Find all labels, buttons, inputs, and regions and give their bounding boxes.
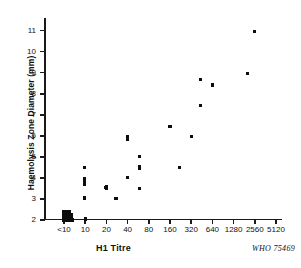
x-tick-2560: [254, 219, 256, 224]
data-point: [199, 78, 202, 81]
data-point: [199, 104, 202, 107]
data-point: [246, 72, 249, 75]
y-tick-11: [40, 30, 46, 32]
y-tick-label-11: 11: [18, 26, 36, 35]
y-tick-4: [40, 177, 46, 179]
data-point: [126, 135, 129, 138]
data-point: [83, 181, 86, 184]
y-tick-label-5: 5: [18, 152, 36, 161]
y-tick-5: [40, 156, 46, 158]
x-tick-20: [106, 219, 108, 224]
y-tick-7: [40, 114, 46, 116]
y-tick-10: [40, 51, 46, 53]
x-tick-80: [148, 219, 150, 224]
data-point: [178, 166, 181, 169]
scatter-plot-figure: Haemolysis Zone Diameter (mm) 2345678910…: [0, 0, 301, 268]
y-tick-label-2: 2: [18, 215, 36, 224]
y-tick-label-6: 6: [18, 131, 36, 140]
y-tick-2: [40, 219, 46, 221]
y-tick-label-3: 3: [18, 194, 36, 203]
data-point: [70, 216, 73, 219]
y-tick-label-8: 8: [18, 89, 36, 98]
y-tick-3: [40, 198, 46, 200]
x-tick-640: [212, 219, 214, 224]
x-tick-5120: [275, 219, 277, 224]
data-point: [84, 217, 87, 220]
data-point: [83, 196, 86, 199]
y-axis-line: [44, 18, 46, 220]
data-point: [126, 176, 129, 179]
data-point: [138, 155, 141, 158]
y-tick-label-9: 9: [18, 68, 36, 77]
y-tick-9: [40, 72, 46, 74]
data-point: [168, 125, 171, 128]
y-tick-label-7: 7: [18, 110, 36, 119]
data-point: [190, 135, 193, 138]
data-point: [114, 197, 117, 200]
x-tick-40: [127, 219, 129, 224]
data-point: [211, 83, 214, 86]
x-tick-320: [190, 219, 192, 224]
y-tick-6: [40, 135, 46, 137]
data-point: [83, 166, 86, 169]
who-credit-label: WHO 75469: [252, 244, 295, 253]
data-point: [138, 187, 141, 190]
data-point: [70, 213, 73, 216]
data-point: [68, 210, 71, 213]
y-axis-title: Haemolysis Zone Diameter (mm): [26, 28, 36, 218]
x-tick-160: [169, 219, 171, 224]
data-point: [138, 165, 141, 168]
y-tick-8: [40, 93, 46, 95]
data-point: [126, 138, 129, 141]
x-tick-1280: [233, 219, 235, 224]
data-point: [83, 177, 86, 180]
plot-area: 234567891011 <10102040801603206401280256…: [44, 18, 282, 220]
data-point: [105, 187, 108, 190]
x-tick-label-5120: 5120: [262, 225, 290, 234]
x-axis-title: H1 Titre: [96, 243, 131, 253]
data-point: [253, 30, 256, 33]
x-axis-line: [44, 219, 282, 221]
y-tick-label-10: 10: [18, 47, 36, 56]
y-tick-label-4: 4: [18, 173, 36, 182]
